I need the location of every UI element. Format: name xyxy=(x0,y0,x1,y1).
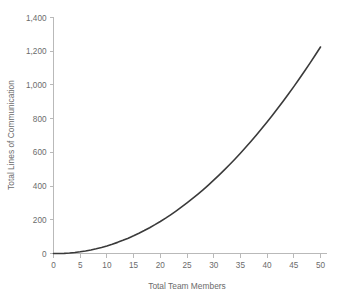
x-tick-label: 45 xyxy=(289,261,299,270)
y-tick-label: 1,400 xyxy=(26,14,47,23)
y-tick-label: 0 xyxy=(42,250,47,259)
x-tick-label: 35 xyxy=(236,261,246,270)
x-tick-label: 20 xyxy=(156,261,166,270)
x-tick-label: 50 xyxy=(316,261,326,270)
y-tick-label: 800 xyxy=(33,115,47,124)
y-tick-label: 1,000 xyxy=(26,81,47,90)
chart-background xyxy=(0,0,347,295)
x-tick-label: 10 xyxy=(102,261,112,270)
x-axis-title: Total Team Members xyxy=(148,281,226,291)
y-tick-label: 600 xyxy=(33,148,47,157)
y-axis-title: Total Lines of Communication xyxy=(6,80,16,190)
x-tick-label: 25 xyxy=(182,261,192,270)
chart-figure: 02004006008001,0001,2001,400 05101520253… xyxy=(0,0,347,295)
x-tick-label: 40 xyxy=(263,261,273,270)
x-tick-label: 30 xyxy=(209,261,219,270)
y-tick-label: 200 xyxy=(33,216,47,225)
chart-canvas: 02004006008001,0001,2001,400 05101520253… xyxy=(0,0,347,295)
y-tick-label: 1,200 xyxy=(26,47,47,56)
y-tick-label: 400 xyxy=(33,182,47,191)
x-tick-label: 5 xyxy=(78,261,83,270)
x-tick-label: 0 xyxy=(51,261,56,270)
x-tick-label: 15 xyxy=(129,261,139,270)
